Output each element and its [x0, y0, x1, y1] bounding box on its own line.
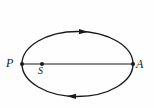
orbit-figure: P S A: [0, 0, 154, 108]
direction-arrow-bottom-icon: [67, 94, 76, 99]
point-marker-aphelion: [131, 62, 135, 66]
label-perihelion: P: [6, 57, 13, 69]
label-aphelion: A: [136, 58, 143, 70]
direction-arrow-top-icon: [79, 29, 88, 34]
label-focus: S: [38, 66, 43, 76]
point-marker-perihelion: [20, 62, 24, 66]
orbit-diagram-svg: [0, 0, 154, 108]
